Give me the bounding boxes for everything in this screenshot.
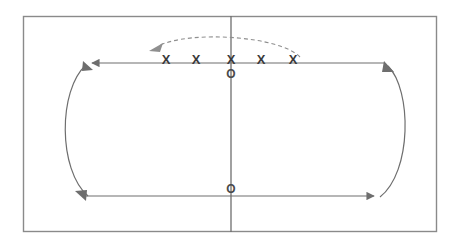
cross-mark-5: X bbox=[289, 52, 298, 67]
cross-mark-1: X bbox=[162, 52, 171, 67]
cross-mark-2: X bbox=[192, 52, 201, 67]
cross-mark-3: X bbox=[227, 52, 236, 67]
diagram-canvas: X X X X X O O bbox=[0, 0, 463, 245]
node-mark-top: O bbox=[226, 67, 235, 81]
node-mark-bottom: O bbox=[226, 182, 235, 196]
cross-mark-4: X bbox=[257, 52, 266, 67]
diagram-svg: X X X X X O O bbox=[0, 0, 463, 245]
